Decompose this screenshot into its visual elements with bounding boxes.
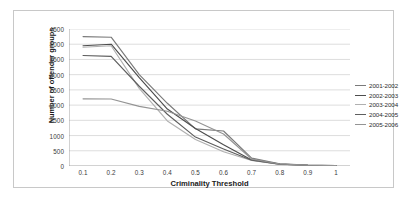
y-axis-tick-label: 4000	[50, 41, 64, 48]
x-axis-tick-label: 0.2	[107, 169, 116, 176]
legend-swatch-icon	[355, 124, 366, 125]
y-axis-tick-label: 3500	[50, 56, 64, 63]
legend-swatch-icon	[355, 85, 366, 86]
x-axis-tick-label: 1	[334, 169, 338, 176]
chart-frame: Number of offender groups 05001000150020…	[13, 10, 394, 188]
x-axis-tick-label: 0.4	[163, 169, 172, 176]
plot-svg	[69, 29, 350, 166]
legend-swatch-icon	[355, 104, 366, 105]
x-axis-title: Criminality Threshold	[69, 179, 350, 188]
x-axis-tick-label: 0.5	[191, 169, 200, 176]
x-axis-tick-label: 0.3	[135, 169, 144, 176]
legend-item-label: 2001-2002	[369, 82, 398, 89]
y-axis-tick-labels: 050010001500200025003000350040004500	[36, 29, 67, 166]
legend-item-label: 2004-2005	[369, 111, 398, 118]
y-axis-tick-label: 2500	[50, 86, 64, 93]
y-axis-tick-label: 3000	[50, 71, 64, 78]
y-axis-tick-label: 1500	[50, 117, 64, 124]
y-axis-tick-label: 500	[53, 147, 64, 154]
y-axis-tick-label: 0	[60, 163, 64, 170]
y-axis-tick-label: 2000	[50, 102, 64, 109]
series-line-2003-2004	[83, 46, 336, 166]
legend-item-2004-2005[interactable]: 2004-2005	[355, 110, 406, 120]
series-line-2005-2006	[83, 99, 336, 166]
legend-item-label: 2002-2003	[369, 92, 398, 99]
x-axis-tick-label: 0.7	[247, 169, 256, 176]
x-axis-tick-label: 0.9	[303, 169, 312, 176]
legend-item-label: 2005-2006	[369, 121, 398, 128]
legend-item-2002-2003[interactable]: 2002-2003	[355, 91, 406, 101]
y-axis-tick-label: 4500	[50, 26, 64, 33]
series-line-2004-2005	[83, 55, 336, 165]
legend-item-2003-2004[interactable]: 2003-2004	[355, 100, 406, 110]
legend-swatch-icon	[355, 95, 366, 96]
x-axis-tick-label: 0.6	[219, 169, 228, 176]
legend-swatch-icon	[355, 114, 366, 115]
x-axis-tick-label: 0.8	[275, 169, 284, 176]
plot-area	[69, 29, 350, 166]
chart-legend: 2001-20022002-20032003-20042004-20052005…	[355, 81, 406, 129]
x-axis-tick-label: 0.1	[79, 169, 88, 176]
legend-item-2005-2006[interactable]: 2005-2006	[355, 119, 406, 129]
legend-item-label: 2003-2004	[369, 101, 398, 108]
legend-item-2001-2002[interactable]: 2001-2002	[355, 81, 406, 91]
y-axis-tick-label: 1000	[50, 132, 64, 139]
